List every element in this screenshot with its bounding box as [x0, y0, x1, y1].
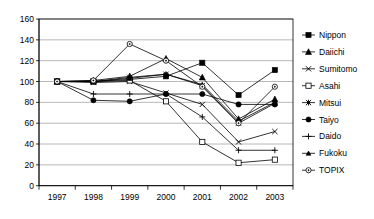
data-point	[163, 99, 168, 104]
x-axis-tick-label: 2001	[193, 192, 212, 202]
legend-item-label: Taiyo	[319, 115, 339, 125]
legend-item-label: Sumitomo	[319, 64, 358, 74]
data-point	[272, 67, 277, 72]
data-point	[127, 41, 132, 46]
legend-item-label: Fukoku	[319, 148, 347, 158]
legend-marker	[306, 32, 311, 37]
y-axis-tick-label: 100	[20, 77, 34, 87]
x-axis-tick-label: 1999	[120, 192, 139, 202]
x-axis-tick-label: 2000	[157, 192, 176, 202]
y-axis-tick-label: 80	[25, 97, 35, 107]
line-chart: 020406080100120140160 199719981999200020…	[0, 0, 374, 219]
legend-item-label: Mitsui	[319, 98, 341, 108]
x-axis-tick-label: 2002	[229, 192, 248, 202]
y-axis-tick-label: 120	[20, 56, 34, 66]
x-axis-tick-label: 1997	[48, 192, 67, 202]
legend-item-label: Nippon	[319, 30, 346, 40]
data-point	[236, 102, 241, 107]
y-axis-tick-label: 40	[25, 139, 35, 149]
data-point	[91, 98, 96, 103]
data-point	[200, 60, 205, 65]
data-point	[272, 84, 277, 89]
legend-marker	[306, 83, 311, 88]
data-point	[236, 92, 241, 97]
legend-marker	[306, 168, 311, 173]
legend-item-label: Asahi	[319, 81, 340, 91]
data-point	[272, 157, 277, 162]
data-point	[55, 79, 60, 84]
x-axis-tick-label: 1998	[84, 192, 103, 202]
chart-background	[0, 0, 374, 219]
y-axis-tick-label: 60	[25, 118, 35, 128]
data-point	[127, 99, 132, 104]
data-point	[200, 91, 205, 96]
legend-item-label: TOPIX	[319, 165, 345, 175]
data-point	[163, 58, 168, 63]
data-point	[200, 84, 205, 89]
x-axis-tick-label: 2003	[265, 192, 284, 202]
legend-marker	[306, 117, 311, 122]
legend-item-label: Daido	[319, 131, 341, 141]
legend-item-label: Daiichi	[319, 47, 345, 57]
y-axis-tick-label: 20	[25, 160, 35, 170]
data-point	[236, 121, 241, 126]
data-point	[200, 139, 205, 144]
data-point	[91, 78, 96, 83]
y-axis-tick-label: 160	[20, 14, 34, 24]
y-axis-tick-label: 140	[20, 35, 34, 45]
data-point	[236, 160, 241, 165]
y-axis-tick-label: 0	[29, 181, 34, 191]
